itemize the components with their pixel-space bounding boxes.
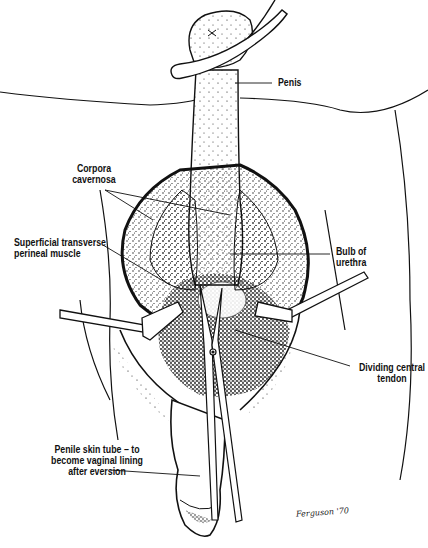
label-dividing-central-tendon: Dividing central tendon — [352, 362, 428, 384]
label-corpora-cavernosa: Corpora cavernosa — [66, 163, 122, 185]
label-bulb-of-urethra: Bulb of urethra — [336, 246, 366, 268]
label-penile-skin-tube: Penile skin tube – to become vaginal lin… — [50, 444, 143, 477]
label-superficial-transverse-perineal-muscle: Superficial transverse perineal muscle — [14, 237, 106, 259]
label-penis: Penis — [278, 77, 301, 88]
